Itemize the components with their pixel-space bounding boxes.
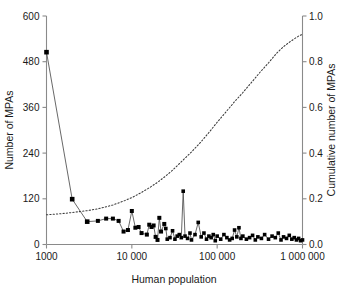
right-axis-group: 0.00.20.40.60.81.0 [303,11,324,251]
mpa-data-point [235,235,239,239]
x-tick-label: 100 000 [199,251,236,262]
mpa-data-point [245,237,249,241]
right-tick-label: 0.4 [309,148,323,159]
mpa-data-point [162,222,166,226]
right-tick-label: 1.0 [309,11,323,22]
mpa-data-point [211,233,215,237]
x-axis-group: 100010 000100 0001 000 000 [35,245,325,262]
mpa-data-point [168,236,172,240]
mpa-data-point [251,234,255,238]
mpa-data-point [260,237,264,241]
right-tick-label: 0.6 [309,102,323,113]
mpa-data-point [140,231,144,235]
mpa-data-point [70,197,75,202]
mpa-data-point [117,219,121,223]
mpa-data-point [96,219,100,223]
mpa-data-point [199,235,203,239]
mpa-data-point [137,225,141,229]
mpa-data-point [122,230,126,234]
right-tick-label: 0.8 [309,56,323,67]
mpa-data-point [287,234,291,238]
mpa-data-point [171,229,175,233]
mpa-data-point [186,237,190,241]
left-tick-label: 240 [23,148,40,159]
mpa-data-point [181,189,185,193]
mpa-data-point [193,233,197,237]
mpa-data-point [196,221,200,225]
y2-axis-title: Cumulative number of MPAs [325,64,337,197]
mpa-series-line [47,52,303,241]
mpa-data-point [263,233,267,237]
chart-figure: 0120240360480600 0.00.20.40.60.81.0 1000… [0,0,343,293]
mpa-data-point [152,223,156,227]
right-axis-ticks: 0.00.20.40.60.81.0 [303,11,324,251]
cumulative-dotted-line [47,34,303,215]
mpa-data-point [159,230,163,234]
mpa-data-point [156,238,160,242]
x-axis-title: Human population [131,273,216,285]
mpa-data-point [188,231,192,235]
mpa-data-point [190,238,194,242]
mpa-data-point [237,226,241,230]
mpa-data-point [215,234,219,238]
mpa-series-markers [44,50,304,243]
mpa-data-point [44,50,49,55]
left-tick-label: 0 [34,239,40,250]
mpa-data-point [230,237,234,241]
right-tick-label: 0.0 [309,239,323,250]
mpa-data-point [130,209,134,213]
mpa-data-point [256,235,260,239]
chart-plot-area: 0120240360480600 0.00.20.40.60.81.0 1000… [0,0,343,293]
x-tick-label: 1 000 000 [280,251,325,262]
mpa-data-point [145,233,149,237]
right-tick-label: 0.2 [309,193,323,204]
left-axis-ticks: 0120240360480600 [23,11,47,251]
x-tick-label: 1000 [35,251,58,262]
left-tick-label: 120 [23,193,40,204]
mpa-data-point [219,237,223,241]
mpa-data-point [241,234,245,238]
left-tick-label: 480 [23,56,40,67]
x-axis-ticks: 100010 000100 0001 000 000 [35,245,325,262]
mpa-data-point [301,238,305,242]
mpa-data-point [180,236,184,240]
mpa-data-point [164,227,168,231]
mpa-data-point [267,237,271,241]
mpa-data-point [126,228,130,232]
mpa-data-point [276,231,280,235]
mpa-data-point [157,216,161,220]
mpa-data-point [233,228,237,232]
mpa-data-point [202,231,206,235]
mpa-data-point [274,236,278,240]
mpa-data-point [111,217,115,221]
left-tick-label: 600 [23,11,40,22]
left-axis-group: 0120240360480600 [23,11,47,251]
y-axis-title: Number of MPAs [3,90,15,169]
left-tick-label: 360 [23,102,40,113]
mpa-data-point [213,239,217,243]
mpa-data-point [270,234,274,238]
x-tick-label: 10 000 [117,251,148,262]
mpa-data-point [85,219,90,224]
mpa-data-point [104,217,108,221]
